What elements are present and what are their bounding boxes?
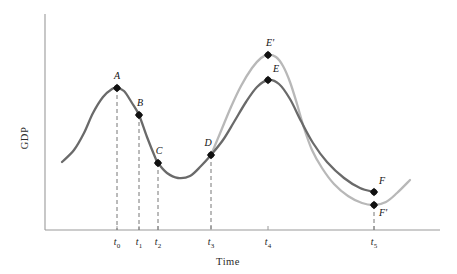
point-label-F: F xyxy=(378,175,386,186)
marker-core-F xyxy=(371,189,377,195)
marker-core-B xyxy=(136,112,142,118)
marker-core-C xyxy=(155,160,161,166)
chart-canvas: ABCDEE'FF' t0t1t2t3t4t5 GDP Time xyxy=(0,0,457,274)
chart-background xyxy=(0,0,457,274)
point-label-A: A xyxy=(113,70,121,81)
point-label-D: D xyxy=(203,137,212,148)
point-label-E-prime: E' xyxy=(265,37,275,48)
point-label-B: B xyxy=(137,97,143,108)
marker-core-F-prime xyxy=(371,202,377,208)
marker-core-A xyxy=(114,85,120,91)
marker-core-E-prime xyxy=(265,52,271,58)
y-axis-title: GDP xyxy=(19,127,30,150)
x-axis-title: Time xyxy=(216,256,240,267)
marker-core-D xyxy=(208,152,214,158)
marker-core-E xyxy=(265,77,271,83)
point-label-E: E xyxy=(272,63,279,74)
point-label-F-prime: F' xyxy=(378,207,388,218)
point-label-C: C xyxy=(156,145,163,156)
gdp-business-cycle-figure: ABCDEE'FF' t0t1t2t3t4t5 GDP Time xyxy=(0,0,457,274)
